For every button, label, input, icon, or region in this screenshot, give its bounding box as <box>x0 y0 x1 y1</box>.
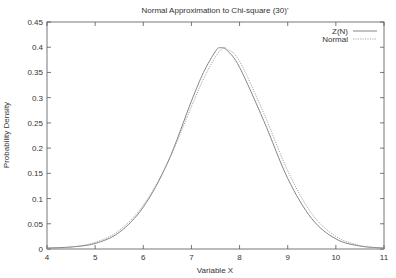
x-tick-label: 5 <box>93 253 98 262</box>
series-z-n- <box>47 48 384 248</box>
y-tick-label: 0.05 <box>27 220 43 229</box>
chart: Normal Approximation to Chi-square (30)'… <box>0 0 396 278</box>
x-axis: 4567891011 <box>45 22 389 262</box>
legend: Z(N)Normal <box>322 27 377 44</box>
y-tick-label: 0.45 <box>27 18 43 27</box>
x-tick-label: 7 <box>189 253 194 262</box>
x-tick-label: 10 <box>331 253 340 262</box>
x-axis-label: Variable X <box>197 266 234 275</box>
y-tick-label: 0.2 <box>32 144 44 153</box>
y-tick-label: 0.3 <box>32 94 44 103</box>
y-tick-label: 0 <box>39 245 44 254</box>
x-tick-label: 11 <box>380 253 389 262</box>
x-tick-label: 4 <box>45 253 50 262</box>
y-tick-label: 0.1 <box>32 195 44 204</box>
y-tick-label: 0.35 <box>27 68 43 77</box>
chart-title: Normal Approximation to Chi-square (30)' <box>142 6 289 15</box>
x-tick-label: 6 <box>141 253 146 262</box>
plot-area <box>47 47 384 248</box>
x-tick-label: 9 <box>285 253 290 262</box>
x-tick-label: 8 <box>237 253 242 262</box>
y-tick-label: 0.25 <box>27 119 43 128</box>
y-tick-label: 0.4 <box>32 43 44 52</box>
y-axis-label: Probability Density <box>2 102 11 168</box>
y-axis: 00.050.10.150.20.250.30.350.40.45 <box>27 18 384 254</box>
legend-label: Normal <box>322 35 348 44</box>
series-normal <box>47 47 384 248</box>
y-tick-label: 0.15 <box>27 169 43 178</box>
